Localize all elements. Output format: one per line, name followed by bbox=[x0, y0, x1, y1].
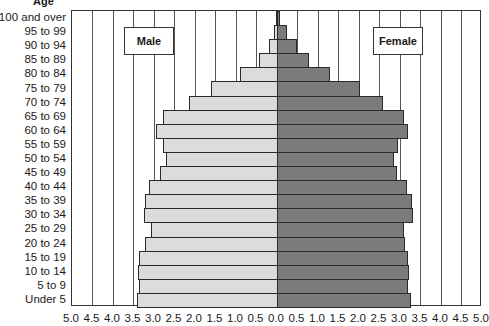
bar-female bbox=[277, 11, 280, 26]
x-axis-labels: 5.04.54.03.53.02.52.01.51.00.50.00.51.01… bbox=[71, 312, 481, 326]
y-tick-label: 80 to 84 bbox=[24, 66, 66, 80]
x-tick-label: 0.5 bbox=[289, 312, 305, 324]
x-tick-label: 3.5 bbox=[125, 312, 141, 324]
y-tick-label: 20 to 24 bbox=[24, 236, 66, 250]
x-tick-label: 4.0 bbox=[104, 312, 120, 324]
bar-female bbox=[277, 67, 330, 82]
y-tick-label: 75 to 79 bbox=[24, 81, 66, 95]
bar-male bbox=[139, 251, 278, 266]
bar-female bbox=[277, 152, 394, 167]
gridline bbox=[113, 11, 114, 305]
x-tick-label: 1.0 bbox=[309, 312, 325, 324]
bar-male bbox=[189, 96, 278, 111]
x-tick-label: 3.0 bbox=[145, 312, 161, 324]
y-tick-label: 90 to 94 bbox=[24, 38, 66, 52]
y-tick-label: 70 to 74 bbox=[24, 95, 66, 109]
bar-female bbox=[277, 138, 398, 153]
bar-female bbox=[277, 251, 408, 266]
x-tick-label: 5.0 bbox=[473, 312, 489, 324]
bar-female bbox=[277, 25, 287, 40]
bar-male bbox=[137, 293, 278, 308]
gridline bbox=[441, 11, 442, 305]
gridline bbox=[92, 11, 93, 305]
y-tick-label: Under 5 bbox=[25, 292, 66, 306]
bar-female bbox=[277, 293, 411, 308]
x-tick-label: 3.5 bbox=[412, 312, 428, 324]
x-tick-label: 5.0 bbox=[63, 312, 79, 324]
legend-female: Female bbox=[373, 27, 423, 55]
bar-female bbox=[277, 166, 397, 181]
y-tick-label: 55 to 59 bbox=[24, 137, 66, 151]
x-tick-label: 2.5 bbox=[166, 312, 182, 324]
y-tick-label: 5 to 9 bbox=[37, 278, 66, 292]
bar-female bbox=[277, 194, 412, 209]
y-axis-title: Age bbox=[33, 0, 54, 7]
x-tick-label: 2.0 bbox=[350, 312, 366, 324]
bar-female bbox=[277, 53, 309, 68]
bar-male bbox=[240, 67, 278, 82]
y-tick-label: 45 to 49 bbox=[24, 165, 66, 179]
bar-female bbox=[277, 265, 409, 280]
y-tick-label: 10 to 14 bbox=[24, 264, 66, 278]
x-tick-label: 0.0 bbox=[268, 312, 284, 324]
bar-female bbox=[277, 180, 407, 195]
bar-male bbox=[138, 265, 278, 280]
bar-male bbox=[163, 110, 278, 125]
x-tick-label: 2.0 bbox=[186, 312, 202, 324]
bar-female bbox=[277, 222, 404, 237]
bar-male bbox=[139, 279, 278, 294]
x-tick-label: 2.5 bbox=[371, 312, 387, 324]
y-tick-label: 60 to 64 bbox=[24, 123, 66, 137]
y-axis-labels: 100 and over95 to 9990 to 9485 to 8980 t… bbox=[0, 10, 66, 306]
bar-male bbox=[211, 81, 278, 96]
bar-female bbox=[277, 110, 404, 125]
y-tick-label: 15 to 19 bbox=[24, 250, 66, 264]
x-tick-label: 1.0 bbox=[227, 312, 243, 324]
bar-male bbox=[163, 138, 278, 153]
bar-male bbox=[166, 152, 278, 167]
bar-male bbox=[160, 166, 278, 181]
x-tick-label: 1.5 bbox=[330, 312, 346, 324]
y-tick-label: 100 and over bbox=[0, 10, 66, 24]
bar-male bbox=[259, 53, 278, 68]
bar-male bbox=[144, 208, 278, 223]
bar-female bbox=[277, 39, 297, 54]
y-tick-label: 95 to 99 bbox=[24, 24, 66, 38]
y-tick-label: 50 to 54 bbox=[24, 151, 66, 165]
bar-male bbox=[151, 222, 278, 237]
y-tick-label: 85 to 89 bbox=[24, 52, 66, 66]
x-tick-label: 4.5 bbox=[453, 312, 469, 324]
bar-male bbox=[156, 124, 278, 139]
x-tick-label: 1.5 bbox=[207, 312, 223, 324]
gridline bbox=[420, 11, 421, 305]
bar-male bbox=[149, 180, 278, 195]
bar-female bbox=[277, 208, 413, 223]
bar-female bbox=[277, 81, 360, 96]
y-tick-label: 30 to 34 bbox=[24, 207, 66, 221]
bar-male bbox=[145, 194, 278, 209]
x-tick-label: 3.0 bbox=[391, 312, 407, 324]
y-tick-label: 65 to 69 bbox=[24, 109, 66, 123]
bar-male bbox=[145, 237, 278, 252]
y-tick-label: 25 to 29 bbox=[24, 221, 66, 235]
gridline bbox=[461, 11, 462, 305]
y-tick-label: 35 to 39 bbox=[24, 193, 66, 207]
bar-female bbox=[277, 279, 408, 294]
bar-female bbox=[277, 124, 408, 139]
x-tick-label: 4.5 bbox=[84, 312, 100, 324]
gridline bbox=[133, 11, 134, 305]
y-tick-label: 40 to 44 bbox=[24, 179, 66, 193]
x-tick-label: 0.5 bbox=[248, 312, 264, 324]
x-tick-label: 4.0 bbox=[432, 312, 448, 324]
bar-female bbox=[277, 237, 405, 252]
bar-female bbox=[277, 96, 383, 111]
legend-male: Male bbox=[124, 27, 174, 55]
